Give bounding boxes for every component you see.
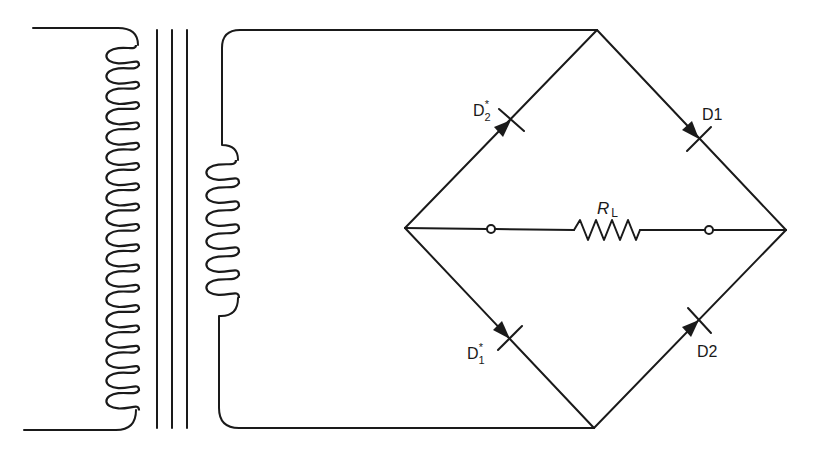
- primary-winding: [24, 28, 139, 430]
- label-rl: RL: [597, 199, 618, 220]
- primary-top-lead: [33, 28, 138, 45]
- terminal-left: [487, 225, 495, 233]
- transformer-core: [157, 30, 187, 428]
- label-d2-star: D2*: [473, 98, 491, 123]
- primary-coil: [106, 45, 139, 410]
- labels: D2* D1 D1* D2 RL: [467, 98, 723, 366]
- label-d1: D1: [702, 106, 723, 123]
- secondary-coil: [206, 160, 239, 298]
- bridge-rectifier-diagram: D2* D1 D1* D2 RL: [0, 0, 815, 456]
- terminal-right: [705, 226, 713, 234]
- secondary-bottom-lead: [219, 298, 594, 428]
- resistor-rl-icon: [574, 220, 640, 240]
- bridge: [405, 30, 786, 428]
- primary-bottom-lead: [24, 410, 136, 430]
- load-branch: [405, 220, 786, 240]
- secondary-top-lead: [222, 30, 597, 160]
- label-d2: D2: [697, 343, 718, 360]
- label-d1-star: D1*: [467, 341, 485, 366]
